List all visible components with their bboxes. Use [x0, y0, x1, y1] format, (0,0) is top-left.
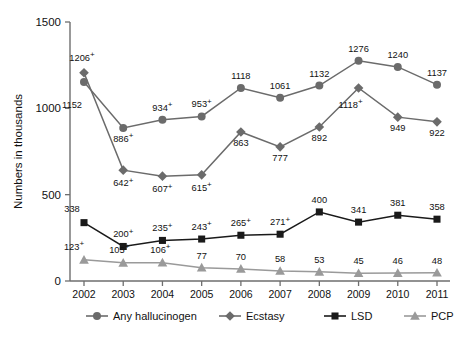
y-axis-title: Numbers in thousands — [12, 94, 24, 209]
series-line — [84, 212, 437, 247]
data-point-label: 200+ — [113, 227, 134, 240]
y-axis-tick-label: 1500 — [35, 16, 61, 28]
data-point-marker — [119, 124, 127, 132]
x-axis-tick-label: 2006 — [229, 288, 253, 300]
legend-marker-diamond-icon — [225, 311, 235, 321]
data-point-label: 235+ — [152, 221, 173, 234]
data-point-label: 265+ — [231, 216, 252, 229]
data-point-label: 1152 — [62, 100, 82, 110]
legend-label: Ecstasy — [246, 310, 285, 322]
legend-item-any-hallucinogen[interactable]: Any hallucinogen — [86, 310, 197, 322]
series-ecstasy — [79, 68, 442, 181]
x-axis-tick-label: 2003 — [112, 288, 136, 300]
series-any-hallucinogen — [80, 57, 441, 132]
x-axis-tick-label: 2011 — [426, 288, 449, 300]
data-point-label: 777 — [272, 153, 288, 163]
x-axis-tick-label: 2005 — [190, 288, 214, 300]
y-axis-tick-label: 500 — [42, 189, 61, 201]
data-point-label: 953+ — [192, 97, 213, 110]
data-point-label: 1118 — [231, 71, 250, 81]
data-point-label: 1240 — [387, 50, 408, 60]
data-point-label: 46 — [393, 256, 403, 266]
data-point-label: 1276 — [348, 44, 369, 54]
data-point-label: 48 — [432, 256, 442, 266]
data-point-label: 58 — [275, 254, 285, 264]
legend-label: PCP — [431, 310, 454, 322]
data-point-marker — [316, 208, 323, 215]
data-point-label: 1132 — [309, 69, 329, 79]
data-point-marker — [237, 232, 244, 239]
data-point-label: 123+ — [64, 239, 85, 252]
legend-item-ecstasy[interactable]: Ecstasy — [219, 310, 285, 322]
data-point-label: 243+ — [192, 219, 213, 232]
legend-marker-circle-icon — [93, 312, 101, 320]
legend-label: LSD — [351, 310, 372, 322]
data-point-label: 338 — [64, 204, 80, 214]
series-pcp — [79, 255, 442, 277]
data-point-label: 381 — [390, 198, 406, 208]
line-chart: 050010001500Numbers in thousands20022003… — [0, 0, 457, 337]
x-axis-tick-label: 2010 — [386, 288, 410, 300]
data-point-marker — [394, 63, 402, 71]
data-point-label: 53 — [314, 255, 324, 265]
data-point-label: 863 — [233, 138, 249, 148]
data-point-marker — [432, 117, 442, 127]
data-point-marker — [315, 82, 323, 90]
legend-marker-square-icon — [331, 312, 338, 319]
data-point-label: 922 — [429, 128, 445, 138]
data-point-label: 1061 — [270, 81, 291, 91]
data-point-marker — [433, 216, 440, 223]
data-point-marker — [276, 94, 284, 102]
data-point-label: 1137 — [427, 68, 447, 78]
x-axis-tick-label: 2009 — [347, 288, 371, 300]
data-point-marker — [237, 84, 245, 92]
y-axis-tick-label: 1000 — [35, 102, 61, 114]
data-point-marker — [433, 81, 441, 89]
data-point-label: 400 — [312, 195, 328, 205]
data-point-label: 1206+ — [69, 50, 95, 63]
data-point-label: 70 — [236, 252, 246, 262]
data-point-label: 892 — [312, 133, 328, 143]
data-point-label: 45 — [353, 256, 363, 266]
series-line — [84, 61, 437, 128]
data-point-label: 271+ — [270, 215, 291, 228]
data-point-label: 77 — [196, 251, 206, 261]
data-point-label: 949 — [390, 123, 406, 133]
data-point-label: 615+ — [192, 180, 213, 193]
figure-caption — [0, 330, 457, 337]
x-axis-tick-label: 2008 — [308, 288, 332, 300]
x-axis-tick-label: 2004 — [151, 288, 175, 300]
data-point-label: 607+ — [152, 182, 173, 195]
data-point-marker — [80, 219, 87, 226]
data-point-marker — [79, 68, 89, 78]
data-point-label: 105+ — [109, 242, 130, 255]
legend-label: Any hallucinogen — [113, 310, 197, 322]
data-point-marker — [198, 236, 205, 243]
x-axis-tick-label: 2007 — [268, 288, 292, 300]
series-lsd — [80, 208, 440, 250]
data-point-marker — [277, 231, 284, 238]
data-point-marker — [394, 212, 401, 219]
y-axis-tick-label: 0 — [55, 275, 61, 287]
data-point-marker — [355, 219, 362, 226]
x-axis-tick-label: 2002 — [72, 288, 96, 300]
legend-item-lsd[interactable]: LSD — [324, 310, 372, 322]
data-point-marker — [118, 165, 128, 175]
series-line — [84, 260, 437, 273]
data-point-label: 106+ — [150, 242, 171, 255]
chart-container: 050010001500Numbers in thousands20022003… — [0, 0, 457, 337]
data-point-label: 934+ — [152, 100, 173, 113]
data-point-label: 1118+ — [339, 97, 363, 110]
legend-item-pcp[interactable]: PCP — [404, 310, 454, 322]
data-point-marker — [158, 171, 168, 181]
data-point-label: 341 — [351, 205, 367, 215]
data-point-marker — [198, 112, 206, 120]
data-point-marker — [275, 142, 285, 152]
data-point-label: 642+ — [113, 176, 134, 189]
data-point-label: 886+ — [113, 131, 134, 144]
data-point-label: 358 — [429, 202, 445, 212]
data-point-marker — [355, 57, 363, 65]
data-point-marker — [158, 116, 166, 124]
